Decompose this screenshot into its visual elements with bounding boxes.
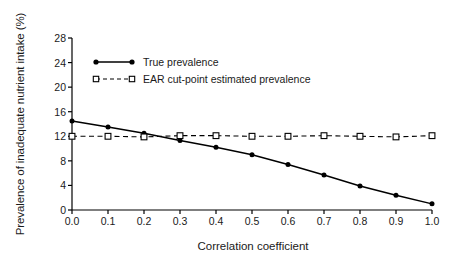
chart-figure: Prevalence of inadequate nutrient intake… — [0, 0, 459, 266]
data-point-1 — [357, 133, 363, 139]
data-point-0 — [430, 201, 435, 206]
data-point-1 — [393, 134, 399, 140]
data-point-0 — [286, 162, 291, 167]
data-point-1 — [141, 134, 147, 140]
data-point-0 — [250, 152, 255, 157]
data-point-0 — [394, 193, 399, 198]
data-point-0 — [214, 145, 219, 150]
data-point-1 — [69, 133, 75, 139]
data-point-0 — [70, 118, 75, 123]
data-point-1 — [213, 133, 219, 139]
data-point-1 — [249, 133, 255, 139]
data-point-0 — [358, 184, 363, 189]
plot-area — [0, 0, 459, 266]
data-point-1 — [429, 133, 435, 139]
data-point-0 — [322, 172, 327, 177]
data-point-1 — [321, 133, 327, 139]
data-point-1 — [105, 133, 111, 139]
data-point-1 — [177, 133, 183, 139]
data-point-0 — [106, 125, 111, 130]
data-point-1 — [285, 133, 291, 139]
